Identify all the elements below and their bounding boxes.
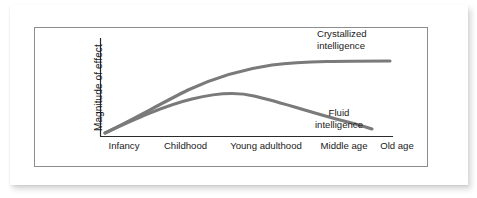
- x-tick-label-old-age: Old age: [375, 139, 419, 152]
- x-axis-tick-labels: Infancy Childhood Young adulthood Middle…: [96, 139, 398, 155]
- y-axis-title: Magnitude of effect: [93, 44, 104, 131]
- series-label-crystallized-line1: Crystallized: [317, 28, 367, 40]
- series-label-fluid-line2: intelligence: [303, 119, 375, 131]
- chart-svg: [0, 0, 477, 198]
- figure-root: Magnitude of effect Infancy Childhood Yo…: [0, 0, 477, 198]
- series-label-fluid-intelligence: Fluid intelligence: [303, 107, 375, 131]
- series-label-fluid-line1: Fluid: [303, 107, 375, 119]
- series-label-crystallized-line2: intelligence: [317, 40, 367, 52]
- series-label-crystallized-intelligence: Crystallized intelligence: [317, 28, 367, 52]
- plot-area: Magnitude of effect Infancy Childhood Yo…: [0, 0, 477, 198]
- x-tick-label-infancy: Infancy: [96, 139, 152, 152]
- x-tick-label-young-adulthood: Young adulthood: [219, 139, 313, 152]
- x-tick-label-childhood: Childhood: [152, 139, 219, 152]
- x-tick-label-middle-age: Middle age: [313, 139, 375, 152]
